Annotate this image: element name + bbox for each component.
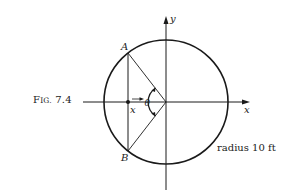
label-point-a: A — [120, 41, 128, 52]
label-position-x: x — [130, 104, 136, 115]
label-axis-x: x — [244, 104, 250, 115]
y-axis-arrow-icon — [164, 16, 169, 24]
label-angle-theta: θ — [145, 98, 151, 108]
label-point-b: B — [120, 152, 128, 163]
direction-arrow-icon — [140, 97, 145, 101]
radius-note: radius 10 ft — [217, 142, 276, 153]
label-axis-y: y — [169, 13, 176, 24]
circle-diagram: A B y x x θ — [0, 0, 288, 192]
radius-to-a — [128, 53, 166, 102]
